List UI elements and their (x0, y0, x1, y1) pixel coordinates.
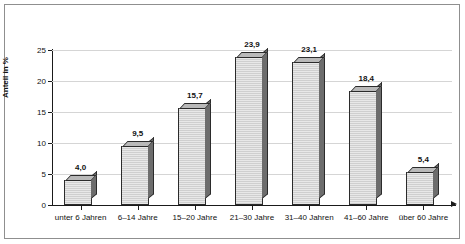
bar (292, 62, 320, 205)
bar-top-face (407, 167, 439, 173)
bar-value-label: 5,4 (403, 155, 443, 164)
plot-area: 4,09,515,723,923,118,45,4 (52, 50, 452, 205)
bar-side-face (319, 53, 325, 199)
bar-value-label: 9,5 (118, 129, 158, 138)
y-tick-label-wrap: 25 (5, 46, 46, 55)
bar (235, 57, 263, 205)
bar (121, 146, 149, 205)
bar-side-face (262, 48, 268, 199)
bar (406, 172, 434, 205)
y-tick-label: 5 (24, 170, 46, 179)
x-tick-mark (366, 206, 367, 210)
x-tick-mark (423, 206, 424, 210)
y-tick-label-wrap: 0 (5, 201, 46, 210)
bar (178, 108, 206, 205)
bar-value-label: 18,4 (346, 74, 386, 83)
y-tick-label: 0 (24, 201, 46, 210)
x-tick-mark (195, 206, 196, 210)
bar (64, 180, 92, 205)
y-tick-label: 10 (24, 139, 46, 148)
bar-value-label: 4,0 (61, 163, 101, 172)
y-tick-mark (48, 81, 52, 82)
y-tick-label: 25 (24, 46, 46, 55)
bar-side-face (205, 99, 211, 199)
bar-value-label: 23,9 (232, 40, 272, 49)
x-tick-mark (138, 206, 139, 210)
bar-value-label: 23,1 (289, 45, 329, 54)
y-tick-label: 15 (24, 108, 46, 117)
y-tick-mark (48, 205, 52, 206)
bar-top-face (65, 175, 97, 181)
x-axis-line (52, 205, 456, 206)
y-tick-mark (48, 174, 52, 175)
gridline (52, 50, 452, 51)
y-tick-mark (48, 50, 52, 51)
bar (349, 91, 377, 205)
y-tick-mark (48, 143, 52, 144)
x-tick-mark (81, 206, 82, 210)
bar-top-face (122, 141, 154, 147)
y-tick-label-wrap: 20 (5, 77, 46, 86)
figure-frame: Anteil in % 4,09,515,723,923,118,45,4 05… (4, 4, 460, 239)
x-tick-mark (252, 206, 253, 210)
bar-side-face (376, 82, 382, 199)
y-tick-label-wrap: 10 (5, 139, 46, 148)
y-tick-label-wrap: 5 (5, 170, 46, 179)
bar-top-face (293, 57, 325, 63)
y-tick-label-wrap: 15 (5, 108, 46, 117)
y-tick-label: 20 (24, 77, 46, 86)
x-tick-mark (309, 206, 310, 210)
bar-top-face (179, 103, 211, 109)
bar-value-label: 15,7 (175, 91, 215, 100)
bar-top-face (236, 52, 268, 58)
chart-screenshot: Anteil in % 4,09,515,723,923,118,45,4 05… (0, 0, 465, 244)
y-tick-mark (48, 112, 52, 113)
x-tick-label: über 60 Jahre (383, 213, 463, 223)
